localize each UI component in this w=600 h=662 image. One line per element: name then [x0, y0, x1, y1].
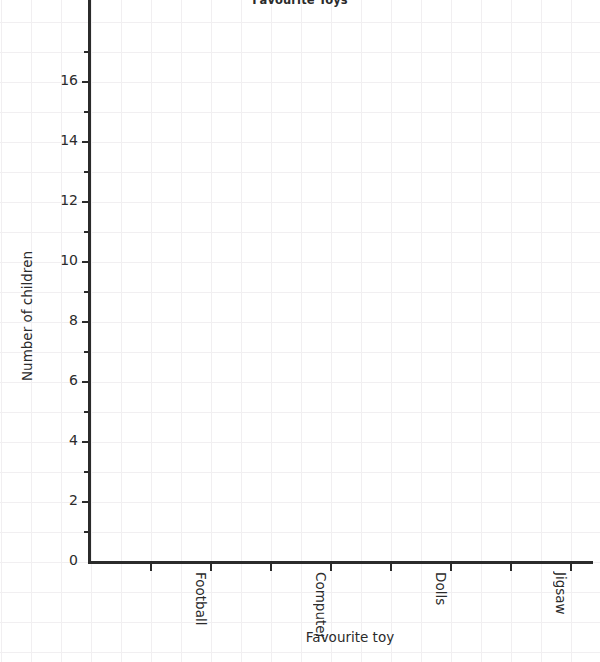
x-tick-3 [330, 564, 332, 571]
y-tick-16 [82, 81, 88, 83]
y-tick-label-16: 16 [40, 72, 78, 88]
chart-container: Favourite Toys Number of children 16 14 … [0, 0, 600, 662]
y-tick-8 [82, 321, 88, 323]
y-tick-label-14-wrap: 14 [40, 132, 78, 150]
y-tick-label-12-wrap: 12 [40, 192, 78, 210]
y-minor-tick-17 [84, 51, 88, 53]
x-category-label-computer: Computer [313, 572, 329, 662]
x-category-label-dolls-text: Dolls [433, 572, 449, 662]
y-tick-label-6-wrap: 6 [40, 372, 78, 390]
y-minor-tick-7 [84, 351, 88, 353]
x-axis-line [88, 561, 593, 564]
x-axis-title: Favourite toy [240, 629, 460, 645]
y-tick-label-4: 4 [40, 432, 78, 448]
x-category-label-jigsaw: Jigsaw [553, 572, 569, 662]
y-tick-label-14: 14 [40, 132, 78, 148]
y-minor-tick-1 [84, 531, 88, 533]
x-category-label-dolls: Dolls [433, 572, 449, 662]
y-minor-tick-15 [84, 111, 88, 113]
y-tick-label-12: 12 [40, 192, 78, 208]
y-tick-label-2-wrap: 2 [40, 492, 78, 510]
y-tick-label-0-wrap: 0 [40, 552, 78, 570]
x-tick-1 [210, 564, 212, 571]
y-minor-tick-11 [84, 231, 88, 233]
y-tick-14 [82, 141, 88, 143]
y-tick-label-10: 10 [40, 252, 78, 268]
y-tick-label-10-wrap: 10 [40, 252, 78, 270]
x-category-label-football-text: Football [193, 572, 209, 662]
x-category-label-jigsaw-text: Jigsaw [553, 572, 569, 662]
x-category-label-computer-text: Computer [313, 572, 329, 662]
y-minor-tick-5 [84, 411, 88, 413]
x-tick-0 [150, 564, 152, 571]
y-tick-label-0: 0 [40, 552, 78, 568]
y-tick-6 [82, 381, 88, 383]
y-tick-label-8: 8 [40, 312, 78, 328]
y-axis-line [88, 0, 91, 564]
y-minor-tick-13 [84, 171, 88, 173]
y-tick-label-2: 2 [40, 492, 78, 508]
x-category-label-football: Football [193, 572, 209, 662]
y-tick-4 [82, 441, 88, 443]
y-tick-label-6: 6 [40, 372, 78, 388]
y-tick-label-4-wrap: 4 [40, 432, 78, 450]
y-tick-12 [82, 201, 88, 203]
y-tick-label-8-wrap: 8 [40, 312, 78, 330]
y-tick-2 [82, 501, 88, 503]
x-tick-7 [570, 564, 572, 571]
x-tick-4 [390, 564, 392, 571]
x-tick-6 [510, 564, 512, 571]
x-tick-5 [450, 564, 452, 571]
y-minor-tick-9 [84, 291, 88, 293]
y-tick-10 [82, 261, 88, 263]
x-tick-2 [270, 564, 272, 571]
y-tick-label-16-wrap: 16 [40, 72, 78, 90]
y-axis-title: Number of children [19, 226, 35, 406]
y-minor-tick-3 [84, 471, 88, 473]
